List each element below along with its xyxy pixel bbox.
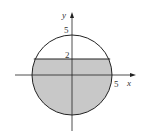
x-axis-label: x bbox=[126, 78, 131, 88]
x-axis-arrow-icon bbox=[130, 73, 136, 77]
circle-region-diagram: y x 5 2 5 bbox=[0, 0, 142, 136]
x-tick-5: 5 bbox=[114, 79, 119, 89]
shaded-region bbox=[30, 59, 115, 119]
y-tick-2: 2 bbox=[65, 50, 70, 60]
y-axis-label: y bbox=[61, 10, 66, 20]
y-axis-arrow-icon bbox=[70, 12, 74, 18]
y-tick-5: 5 bbox=[64, 25, 69, 35]
